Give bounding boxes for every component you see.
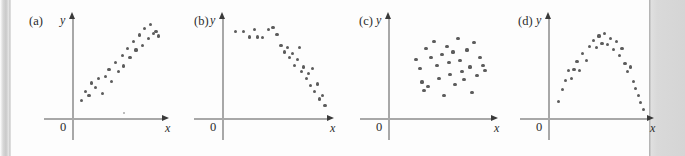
x-axis-label: x (330, 121, 335, 136)
scatter-point (426, 85, 429, 88)
scatter-point (570, 77, 573, 80)
scatter-point (323, 104, 326, 107)
y-axis-label: y (376, 13, 381, 28)
scatter-point (298, 46, 301, 49)
scatter-point (275, 33, 278, 36)
y-axis-arrow-icon (385, 12, 391, 19)
scatter-point (623, 62, 626, 65)
scatter-point (597, 34, 600, 37)
scatter-point (588, 45, 591, 48)
scatter-point (465, 48, 468, 51)
origin-label: 0 (376, 120, 382, 135)
scatter-point (481, 64, 484, 67)
x-axis-label: x (165, 121, 170, 136)
y-axis-label: y (536, 13, 541, 28)
panel-d: (d)yx0 (0, 0, 165, 156)
scatter-point (305, 77, 308, 80)
origin-label: 0 (210, 120, 216, 135)
scatter-point (288, 56, 291, 59)
scatter-point (451, 50, 454, 53)
scatter-point (286, 46, 289, 49)
panel-label-b: (b) (194, 14, 209, 29)
scatter-point (256, 35, 259, 38)
scatter-point (316, 82, 319, 85)
y-axis-line (222, 18, 224, 140)
scatter-point (632, 80, 635, 83)
scatter-point (564, 79, 567, 82)
scatter-point (475, 74, 478, 77)
scatter-point (483, 69, 486, 72)
scatter-point (600, 42, 603, 45)
scatter-point (432, 40, 435, 43)
y-axis-arrow-icon (219, 12, 225, 19)
scatter-point (629, 65, 632, 68)
scatter-point (302, 65, 305, 68)
y-axis-label: y (210, 13, 215, 28)
x-axis-label: x (650, 121, 655, 136)
scatter-point (595, 46, 598, 49)
scatter-point (429, 56, 432, 59)
scatter-point (637, 94, 640, 97)
scatter-point (279, 44, 282, 47)
scatter-point (271, 26, 274, 29)
scatter-point (437, 77, 440, 80)
scatter-point (424, 47, 427, 50)
y-axis-arrow-icon (545, 12, 551, 19)
scatter-point (283, 50, 286, 53)
scatter-point (478, 56, 481, 59)
scatter-point (472, 41, 475, 44)
scatter-point (296, 58, 299, 61)
scatter-point (642, 108, 645, 111)
scatter-point (460, 70, 463, 73)
y-axis-line (548, 18, 550, 140)
scatter-point (422, 89, 425, 92)
origin-label: 0 (536, 120, 542, 135)
scatter-point (468, 65, 471, 68)
scatter-point (420, 80, 423, 83)
panel-label-c: (c) (359, 14, 373, 29)
scatter-point (242, 30, 245, 33)
scatter-point (445, 45, 448, 48)
scatter-point (448, 73, 451, 76)
scatterplot-figure: (a)yx0 (b)yx0 (c)yx0 (d)yx0 (0, 0, 685, 156)
scatter-point (435, 64, 438, 67)
scatter-point (440, 53, 443, 56)
scatter-point (470, 91, 473, 94)
scatter-point (293, 64, 296, 67)
scatter-point (414, 58, 417, 61)
scatter-point (575, 60, 578, 63)
scatter-point (248, 35, 251, 38)
scatter-point (442, 94, 445, 97)
scatter-point (447, 61, 450, 64)
scatter-point (462, 78, 465, 81)
panel-label-d: (d) (518, 14, 533, 29)
scatter-point (234, 30, 237, 33)
y-axis-line (388, 18, 390, 140)
scatter-point (620, 47, 623, 50)
scatter-point (458, 59, 461, 62)
x-axis-label: x (494, 121, 499, 136)
scatter-point (612, 48, 615, 51)
